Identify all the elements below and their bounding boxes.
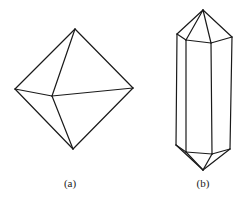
edge-line (230, 37, 232, 149)
edge-line (73, 88, 133, 149)
edge-line (186, 10, 203, 40)
edge-line (52, 96, 73, 149)
edge-line (203, 10, 232, 37)
edge-line (186, 152, 212, 154)
edge-line (75, 29, 133, 88)
crystal-drawings (0, 0, 248, 197)
figure-label-b: (b) (197, 177, 210, 189)
edge-line (203, 154, 212, 170)
edge-line (15, 29, 75, 89)
edge-line (203, 10, 211, 43)
edge-line (177, 34, 186, 40)
edge-line (52, 29, 75, 96)
edge-line (177, 10, 203, 34)
edge-line (176, 34, 177, 145)
edge-line (211, 43, 212, 154)
edge-line (15, 89, 73, 149)
edge-line (186, 40, 211, 43)
edge-line (52, 88, 133, 96)
hexagonal-crystal-figure (176, 10, 232, 170)
figure-label-a: (a) (64, 177, 76, 189)
edge-line (186, 152, 203, 170)
figure-canvas: (a) (b) (0, 0, 248, 197)
octahedron-figure (15, 29, 133, 149)
edge-line (211, 37, 232, 43)
